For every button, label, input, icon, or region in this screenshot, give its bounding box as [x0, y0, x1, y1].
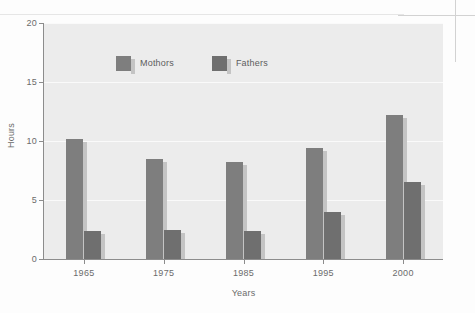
- x-axis-title: Years: [44, 289, 443, 298]
- y-tick-label: 15: [7, 78, 37, 87]
- y-tick-label: 5: [7, 196, 37, 205]
- legend-swatch-mothers-icon: [116, 56, 131, 71]
- y-tick-mark: [39, 23, 43, 24]
- y-tick-mark: [39, 259, 43, 260]
- x-tick-mark: [84, 260, 85, 264]
- bar-fathers-1995: [324, 212, 341, 259]
- x-tick-label-1995: 1995: [293, 269, 353, 278]
- y-tick-mark: [39, 141, 43, 142]
- y-axis-title: Hours: [7, 113, 16, 159]
- chart-legend: Mothors Fathers: [116, 54, 268, 72]
- bar-fathers-1985: [244, 231, 261, 259]
- y-tick-label: 0: [7, 255, 37, 264]
- legend-entry-fathers: Fathers: [212, 56, 268, 71]
- x-tick-label-1965: 1965: [54, 269, 114, 278]
- gridline: [44, 23, 443, 24]
- legend-entry-mothers: Mothors: [116, 56, 174, 71]
- gridline: [44, 82, 443, 83]
- gridline: [44, 141, 443, 142]
- x-tick-label-2000: 2000: [373, 269, 433, 278]
- x-axis-tick-labels: 19651975198519952000: [44, 269, 443, 283]
- x-tick-mark: [164, 260, 165, 264]
- plot-area: Mothors Fathers: [44, 23, 443, 259]
- x-tick-mark: [244, 260, 245, 264]
- bar-fathers-2000: [404, 182, 421, 259]
- bar-fathers-1965: [84, 231, 101, 259]
- x-tick-mark: [403, 260, 404, 264]
- y-tick-mark: [39, 200, 43, 201]
- y-tick-mark: [39, 82, 43, 83]
- legend-swatch-fathers-icon: [212, 56, 227, 71]
- bar-mothors-1975: [146, 159, 163, 259]
- y-axis-line: [43, 23, 44, 260]
- bar-mothors-1965: [66, 139, 83, 259]
- x-tick-label-1985: 1985: [214, 269, 274, 278]
- legend-label-mothers: Mothors: [140, 59, 174, 68]
- bar-mothors-1985: [226, 162, 243, 259]
- bar-mothors-2000: [386, 115, 403, 259]
- bar-mothors-1995: [306, 148, 323, 259]
- x-tick-mark: [323, 260, 324, 264]
- legend-label-fathers: Fathers: [236, 59, 268, 68]
- x-tick-label-1975: 1975: [134, 269, 194, 278]
- bar-chart-figure: Mothors Fathers 05101520 Hours 196519751…: [0, 0, 475, 313]
- y-tick-label: 20: [7, 19, 37, 28]
- bar-fathers-1975: [164, 230, 181, 260]
